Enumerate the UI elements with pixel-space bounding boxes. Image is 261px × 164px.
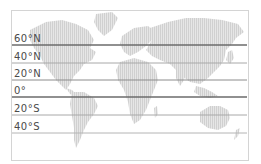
madagascar-shape [154,106,158,118]
south-america-shape [70,92,98,148]
latitude-label-40n: 40°N [14,52,41,62]
new-zealand-shape [234,128,240,140]
world-map [0,0,261,164]
latitude-label-20n: 20°N [14,69,41,79]
latitude-label-60n: 60°N [14,34,41,44]
latitude-label-equator: 0° [14,86,26,96]
australia-shape [200,106,230,130]
latitude-label-20s: 20°S [14,104,40,114]
southeast-asia-shape [194,86,218,98]
greenland-shape [94,12,118,36]
africa-shape [116,58,158,124]
latitude-label-40s: 40°S [14,122,40,132]
asia-shape [146,18,244,84]
japan-shape [226,50,234,64]
india-shape [176,68,186,86]
